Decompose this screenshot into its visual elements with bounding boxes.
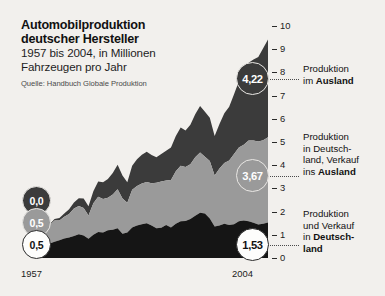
legend-export-prefix: ins — [303, 166, 318, 177]
legend-ausland-line2: im Ausland — [303, 75, 385, 87]
y-tick-mark — [272, 142, 277, 143]
leader-line-export — [265, 176, 299, 177]
legend-export-line1: Produktion — [303, 131, 385, 143]
y-tick-mark — [272, 165, 277, 166]
legend-ausland-prefix: im — [303, 75, 316, 86]
y-tick-mark — [272, 235, 277, 236]
end-value-bubble-export: 3,67 — [236, 159, 269, 192]
legend-inland-line3: in Deutsch- — [303, 231, 385, 243]
legend-item-deutschland-export: Produktion in Deutsch- land, Verkauf ins… — [303, 131, 385, 177]
y-tick-label: 5 — [280, 136, 285, 147]
y-tick-label: 2 — [280, 206, 285, 217]
infographic-root: Automobilproduktion deutscher Hersteller… — [0, 0, 385, 296]
x-axis-label-start: 1957 — [21, 268, 42, 279]
legend-inland-bold2: land — [303, 243, 323, 254]
y-tick-label: 3 — [280, 182, 285, 193]
y-tick-label: 10 — [280, 20, 290, 31]
x-axis-label-end: 2004 — [232, 268, 253, 279]
start-value-bubble-inland: 0,5 — [22, 230, 51, 259]
y-tick-mark — [272, 188, 277, 189]
legend-ausland-bold: Ausland — [316, 75, 354, 86]
legend-export-bold: Ausland — [318, 166, 356, 177]
y-tick-label: 9 — [280, 43, 285, 54]
y-tick-mark — [272, 26, 277, 27]
legend-inland-bold1: Deutsch- — [313, 231, 354, 242]
leader-line-inland — [265, 245, 299, 246]
y-tick-mark — [272, 212, 277, 213]
y-tick-label: 1 — [280, 229, 285, 240]
y-tick-label: 4 — [280, 159, 285, 170]
legend-item-deutschland-inland: Produktion und Verkauf in Deutsch- land — [303, 208, 385, 254]
y-tick-mark — [272, 119, 277, 120]
y-tick-mark — [272, 72, 277, 73]
legend-item-ausland: Produktion im Ausland — [303, 63, 385, 86]
legend-inland-line1: Produktion — [303, 208, 385, 220]
legend-inland-line2: und Verkauf — [303, 220, 385, 232]
y-tick-label: 8 — [280, 66, 285, 77]
end-value-bubble-ausland: 4,22 — [236, 62, 269, 95]
y-tick-label: 7 — [280, 90, 285, 101]
end-value-bubble-inland: 1,53 — [236, 228, 269, 261]
legend-export-line2: in Deutsch- — [303, 143, 385, 155]
legend-export-line3: land, Verkauf — [303, 154, 385, 166]
y-tick-label: 6 — [280, 113, 285, 124]
legend-ausland-line1: Produktion — [303, 63, 385, 75]
legend-inland-line4: land — [303, 243, 385, 255]
stacked-area-svg — [40, 20, 268, 258]
y-tick-mark — [272, 49, 277, 50]
y-tick-mark — [272, 96, 277, 97]
leader-line-ausland — [265, 79, 299, 80]
legend-inland-prefix: in — [303, 231, 313, 242]
legend-export-line4: ins Ausland — [303, 166, 385, 178]
chart-plot-area — [40, 20, 268, 258]
y-tick-label: 0 — [280, 252, 285, 263]
y-tick-mark — [272, 258, 277, 259]
